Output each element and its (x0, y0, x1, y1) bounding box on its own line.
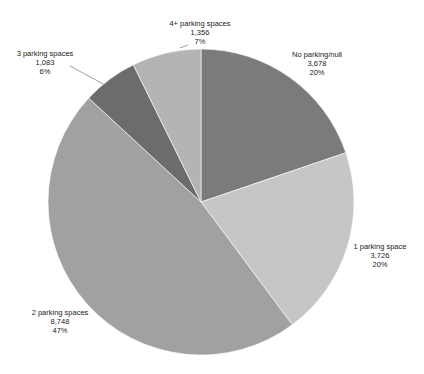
slice-label: 4+ parking spaces (150, 19, 250, 28)
slice-label: 3 parking spaces (10, 49, 80, 58)
label-1-parking: 1 parking space 3,726 20% (340, 242, 420, 269)
slice-label: 2 parking spaces (10, 308, 110, 317)
slice-percent: 20% (340, 260, 420, 269)
slice-value: 3,678 (262, 59, 372, 68)
slice-percent: 7% (150, 37, 250, 46)
slice-percent: 6% (10, 67, 80, 76)
slice-value: 3,726 (340, 251, 420, 260)
slice-percent: 20% (262, 68, 372, 77)
slice-percent: 47% (10, 326, 110, 335)
label-no-parking: No parking/null 3,678 20% (262, 50, 372, 77)
label-3-parking: 3 parking spaces 1,083 6% (10, 49, 80, 76)
slice-label: 1 parking space (340, 242, 420, 251)
slice-value: 1,083 (10, 58, 80, 67)
slice-label: No parking/null (262, 50, 372, 59)
label-2-parking: 2 parking spaces 8,748 47% (10, 308, 110, 335)
slice-value: 8,748 (10, 317, 110, 326)
label-4plus-parking: 4+ parking spaces 1,356 7% (150, 19, 250, 46)
slice-value: 1,356 (150, 28, 250, 37)
